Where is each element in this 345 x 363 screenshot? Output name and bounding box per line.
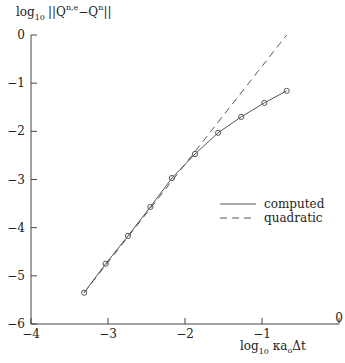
x-tick-label: −4: [22, 327, 40, 341]
x-tick-label: −2: [176, 327, 194, 341]
y-tick-label: −5: [7, 269, 25, 283]
y-axis-title: log10||Qn,e−Qn||: [16, 3, 111, 22]
x-ticks: −4−3−2−10: [22, 311, 343, 341]
y-ticks: 0−1−2−3−4−5−6: [7, 28, 37, 331]
axes: [31, 35, 339, 324]
legend-label-computed: computed: [264, 197, 325, 211]
x-tick-label: 0: [335, 311, 343, 325]
legend-label-quadratic: quadratic: [264, 211, 323, 225]
legend: computed quadratic: [220, 197, 325, 225]
y-tick-label: −2: [7, 124, 25, 138]
series-computed: [84, 91, 287, 293]
y-tick-label: −1: [7, 76, 25, 90]
chart-canvas: log10||Qn,e−Qn|| 0−1−2−3−4−5−6 −4−3−2−10…: [0, 0, 345, 363]
x-tick-label: −3: [99, 327, 117, 341]
y-tick-label: 0: [17, 28, 25, 42]
data-series: [82, 35, 290, 295]
data-point-marker: [284, 88, 289, 93]
x-axis-title: log10 κaoΔt: [240, 339, 306, 356]
y-tick-label: −3: [7, 173, 25, 187]
y-tick-label: −4: [7, 221, 25, 235]
